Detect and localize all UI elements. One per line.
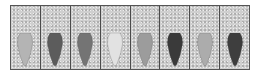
vase-shape-icon bbox=[137, 33, 153, 66]
tile bbox=[190, 6, 220, 69]
vase-shape-icon bbox=[197, 33, 213, 66]
tile bbox=[160, 6, 190, 69]
tile bbox=[131, 6, 161, 69]
tile bbox=[41, 6, 71, 69]
vase-shape-icon bbox=[107, 33, 123, 66]
tile bbox=[11, 6, 41, 69]
tile bbox=[101, 6, 131, 69]
vase-shape-icon bbox=[47, 33, 63, 66]
vase-shape-icon bbox=[167, 33, 183, 66]
tile bbox=[71, 6, 101, 69]
vase-shape-icon bbox=[17, 33, 33, 66]
vase-shape-icon bbox=[77, 33, 93, 66]
tile-strip bbox=[10, 5, 250, 70]
tile bbox=[220, 6, 249, 69]
vase-shape-icon bbox=[227, 33, 243, 66]
